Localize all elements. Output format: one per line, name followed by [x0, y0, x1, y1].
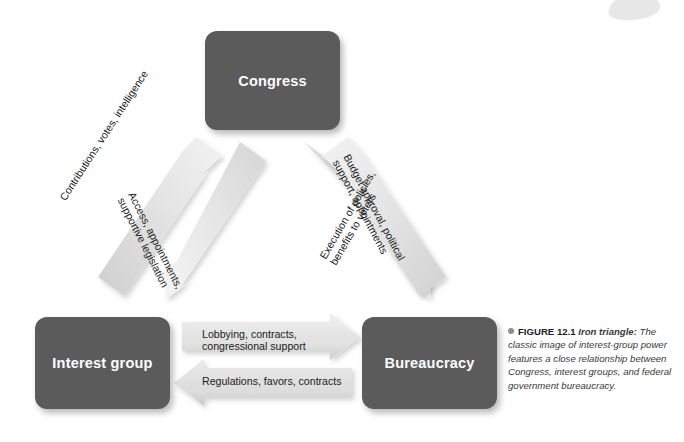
node-bureaucracy[interactable]: Bureaucracy	[362, 317, 497, 409]
arrow-label-bureaucracy-to-interest: Regulations, favors, contracts	[202, 375, 342, 388]
arrow-label-interest-to-bureaucracy: Lobbying, contracts, congressional suppo…	[202, 328, 306, 353]
node-interest-group[interactable]: Interest group	[35, 317, 170, 409]
node-congress-label: Congress	[238, 73, 306, 89]
node-interest-group-label: Interest group	[52, 355, 152, 371]
node-bureaucracy-label: Bureaucracy	[384, 355, 474, 371]
bullet-dot-icon	[508, 328, 514, 334]
figure-title: Iron triangle:	[578, 326, 637, 337]
arrow-label-line-1: Lobbying, contracts,	[202, 328, 306, 340]
figure-canvas: Congress Interest group Bureaucracy Cont…	[0, 0, 684, 442]
arrow-label-line-1: Regulations, favors, contracts	[202, 375, 342, 388]
figure-caption: FIGURE 12.1 Iron triangle: The classic i…	[508, 325, 676, 392]
figure-number: FIGURE 12.1	[518, 326, 576, 337]
arrow-label-line-2: congressional support	[202, 340, 306, 352]
node-congress[interactable]: Congress	[205, 31, 340, 130]
